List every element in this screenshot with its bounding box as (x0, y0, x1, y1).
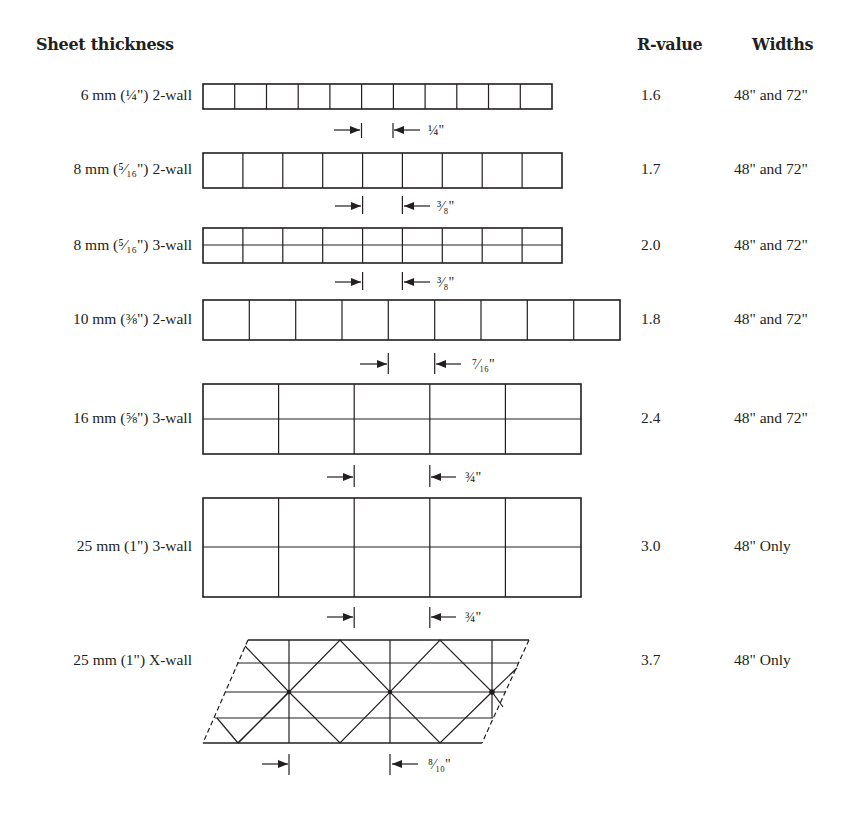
spacing-label-25mm-3wall: ¾" (465, 610, 481, 625)
dimension-6mm (334, 123, 420, 138)
dimension-25mm-3wall (327, 607, 456, 628)
spacing-label-16mm: ¾" (465, 470, 481, 485)
spacing-label-8mm-2wall: ³⁄₈" (437, 199, 454, 214)
profile-25mm-3wall (203, 498, 581, 597)
profile-16mm-3wall (203, 384, 581, 454)
dimension-8mm-2wall (335, 196, 430, 214)
profile-8mm-3wall (203, 228, 562, 263)
dimension-10mm (360, 353, 461, 374)
dimension-16mm (327, 465, 456, 487)
spacing-label-10mm: ⁷⁄₁₆" (472, 357, 495, 372)
dimension-25mm-xwall (262, 754, 418, 775)
profile-25mm-xwall (203, 640, 529, 743)
profile-6mm-2wall (203, 84, 552, 109)
dimension-8mm-3wall (335, 272, 430, 290)
spacing-label-25mm-xwall: ⁸⁄₁₀" (428, 757, 451, 772)
sheet-cross-section-drawings: ¼" ³⁄₈" ³⁄₈" ⁷⁄₁₆" ¾" ¾" ⁸⁄₁₀" (0, 0, 862, 815)
profile-10mm-2wall (203, 300, 620, 340)
spacing-label-8mm-3wall: ³⁄₈" (437, 275, 454, 290)
spacing-label-6mm: ¼" (428, 123, 444, 138)
profile-8mm-2wall (203, 153, 562, 188)
